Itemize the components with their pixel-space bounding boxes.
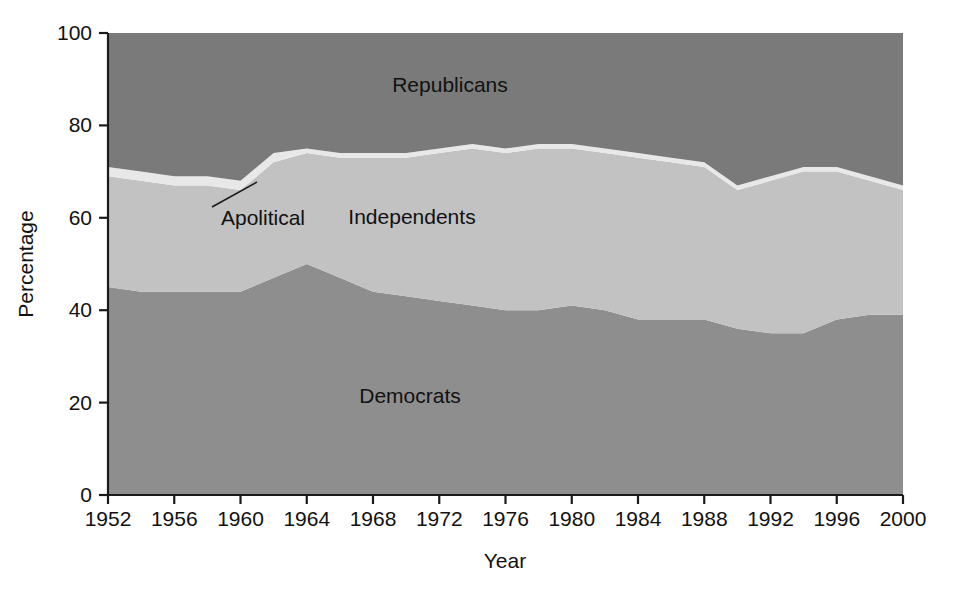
x-tick-label: 1984 [615, 507, 662, 530]
x-axis-title: Year [484, 549, 526, 572]
x-tick-label: 1968 [350, 507, 397, 530]
y-axis-ticks [99, 33, 108, 495]
x-tick-label: 2000 [880, 507, 927, 530]
x-axis-ticks [108, 495, 903, 504]
y-axis-tick-labels: 020406080100 [57, 21, 92, 506]
x-tick-label: 1972 [416, 507, 463, 530]
x-tick-label: 1960 [217, 507, 264, 530]
y-tick-label: 100 [57, 21, 92, 44]
y-axis-title: Percentage [14, 210, 37, 317]
x-tick-label: 1956 [151, 507, 198, 530]
x-tick-label: 1976 [482, 507, 529, 530]
y-tick-label: 60 [69, 206, 92, 229]
area-bands-group [108, 33, 903, 495]
x-tick-label: 1980 [548, 507, 595, 530]
x-axis-tick-labels: 1952195619601964196819721976198019841988… [85, 507, 927, 530]
y-tick-label: 20 [69, 391, 92, 414]
chart-figure: 020406080100 195219561960196419681972197… [0, 0, 953, 596]
series-label-democrats: Democrats [359, 384, 461, 407]
series-label-independents: Independents [348, 205, 475, 228]
y-tick-label: 80 [69, 113, 92, 136]
y-tick-label: 0 [80, 483, 92, 506]
x-tick-label: 1992 [747, 507, 794, 530]
series-label-republicans: Republicans [392, 73, 508, 96]
y-tick-label: 40 [69, 298, 92, 321]
stacked-area-chart: 020406080100 195219561960196419681972197… [0, 0, 953, 596]
x-tick-label: 1996 [813, 507, 860, 530]
x-tick-label: 1952 [85, 507, 132, 530]
x-tick-label: 1988 [681, 507, 728, 530]
series-label-apolitical: Apolitical [221, 206, 305, 229]
x-tick-label: 1964 [283, 507, 330, 530]
